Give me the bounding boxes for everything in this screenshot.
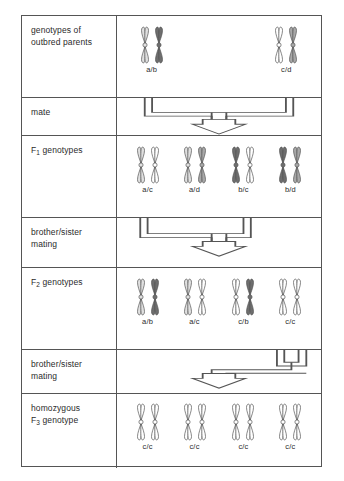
genotype-label: c/d <box>273 66 300 74</box>
label-text: mating <box>31 239 57 249</box>
row-parents: genotypes ofoutbred parentsa/bc/d <box>22 16 321 98</box>
chromosome-pair <box>134 403 161 441</box>
inbreeding-diagram: genotypes ofoutbred parentsa/bc/dmateF1 … <box>21 15 322 467</box>
genotype-group: b/c <box>230 146 257 194</box>
genotype-group: c/c <box>134 403 161 451</box>
chromosome-d <box>195 146 208 184</box>
label-text: F2 genotypes <box>31 277 83 287</box>
genotype-group: a/c <box>134 146 161 194</box>
genotype-group: a/c <box>181 278 208 326</box>
row-content-mating1 <box>117 218 321 267</box>
chromosome-c <box>230 403 243 441</box>
row-content-mate <box>117 98 321 135</box>
chromosome-a <box>181 146 194 184</box>
genotype-label: c/c <box>134 443 161 451</box>
chromosome-c <box>291 278 304 316</box>
genotype-group: c/d <box>273 26 300 74</box>
genotype-label: a/c <box>134 186 161 194</box>
genotype-group: c/c <box>230 403 257 451</box>
genotype-label: b/d <box>277 186 304 194</box>
chromosome-c <box>134 403 147 441</box>
row-content-f2: a/ba/cc/bc/c <box>117 268 321 349</box>
genotype-group: c/c <box>277 278 304 326</box>
row-label-f1: F1 genotypes <box>22 136 117 217</box>
label-text: mate <box>31 107 50 117</box>
row-label-mate: mate <box>22 98 117 135</box>
chromosome-c <box>181 403 194 441</box>
connector-mate-bracket <box>117 98 321 135</box>
genotype-group: c/c <box>277 403 304 451</box>
chromosome-c <box>148 146 161 184</box>
chromosome-pair <box>230 278 257 316</box>
chromosome-c <box>291 403 304 441</box>
chromosome-b <box>152 26 165 64</box>
chromosome-a <box>134 146 147 184</box>
row-label-f3: homozygousF3 genotype <box>22 394 117 468</box>
chromosome-c <box>277 403 290 441</box>
label-subscript: 3 <box>36 419 40 426</box>
row-f3: homozygousF3 genotypec/cc/cc/cc/c <box>22 394 321 468</box>
chromosome-pair <box>277 403 304 441</box>
label-text: outbred parents <box>31 37 92 47</box>
chromosome-pair <box>138 26 165 64</box>
chromosome-c <box>230 278 243 316</box>
genotype-group: a/b <box>134 278 161 326</box>
chromosome-b <box>148 278 161 316</box>
row-label-parents: genotypes ofoutbred parents <box>22 16 117 97</box>
chromosome-pair <box>277 146 304 184</box>
genotype-label: c/c <box>181 443 208 451</box>
connector-sib-bracket-2 <box>117 350 321 393</box>
genotype-label: c/b <box>230 318 257 326</box>
row-label-f2: F2 genotypes <box>22 268 117 349</box>
row-content-parents: a/bc/d <box>117 16 321 97</box>
row-label-mating1: brother/sistermating <box>22 218 117 267</box>
row-content-mating2 <box>117 350 321 393</box>
genotype-label: a/b <box>138 66 165 74</box>
chromosome-a <box>138 26 151 64</box>
genotype-label: c/c <box>230 443 257 451</box>
chromosome-d <box>287 26 300 64</box>
genotype-label: a/d <box>181 186 208 194</box>
label-text: brother/sister <box>31 227 82 237</box>
row-f2: F2 genotypesa/ba/cc/bc/c <box>22 268 321 350</box>
chromosome-pair <box>181 146 208 184</box>
label-text: homozygous <box>31 403 80 413</box>
label-subscript: 2 <box>36 281 40 288</box>
genotype-group: a/d <box>181 146 208 194</box>
chromosome-c <box>195 403 208 441</box>
chromosome-pair <box>181 403 208 441</box>
row-f1: F1 genotypesa/ca/db/cb/d <box>22 136 321 218</box>
chromosome-a <box>181 278 194 316</box>
label-text: mating <box>31 371 57 381</box>
genotype-label: a/b <box>134 318 161 326</box>
chromosome-c <box>277 278 290 316</box>
genotype-group: c/b <box>230 278 257 326</box>
label-text: genotypes of <box>31 25 81 35</box>
chromosome-pair <box>230 146 257 184</box>
row-mate: mate <box>22 98 321 136</box>
connector-sib-bracket-1 <box>117 218 321 267</box>
genotype-label: a/c <box>181 318 208 326</box>
row-label-mating2: brother/sistermating <box>22 350 117 393</box>
label-text: F1 genotypes <box>31 145 83 155</box>
row-content-f3: c/cc/cc/cc/c <box>117 394 321 468</box>
genotype-group: c/c <box>181 403 208 451</box>
genotype-label: c/c <box>277 443 304 451</box>
row-mating2: brother/sistermating <box>22 350 321 394</box>
chromosome-c <box>244 403 257 441</box>
chromosome-b <box>230 146 243 184</box>
row-mating1: brother/sistermating <box>22 218 321 268</box>
label-text: brother/sister <box>31 359 82 369</box>
chromosome-pair <box>277 278 304 316</box>
genotype-label: b/c <box>230 186 257 194</box>
chromosome-d <box>291 146 304 184</box>
chromosome-b <box>277 146 290 184</box>
genotype-label: c/c <box>277 318 304 326</box>
chromosome-pair <box>181 278 208 316</box>
chromosome-pair <box>134 146 161 184</box>
chromosome-c <box>244 146 257 184</box>
chromosome-b <box>244 278 257 316</box>
chromosome-pair <box>273 26 300 64</box>
genotype-group: a/b <box>138 26 165 74</box>
label-text: F3 genotype <box>31 415 78 425</box>
